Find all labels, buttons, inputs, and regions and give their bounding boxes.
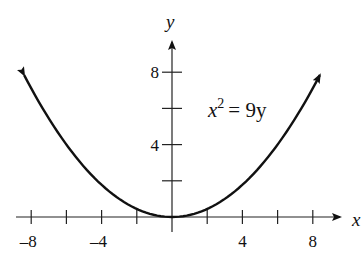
x-tick-label: 4 [238,232,247,251]
x-tick-labels: –8–448 [19,232,317,251]
x-tick-label: –8 [19,232,37,251]
y-tick-label: 8 [151,63,160,82]
x-tick-label: 8 [309,232,318,251]
equation-label: x2= 9y [207,96,267,122]
parabola-chart: x y x2= 9y –8–448 48 [0,0,362,265]
equation-rhs: = 9y [228,98,267,122]
y-tick-labels: 48 [151,63,160,154]
x-tick-label: –4 [89,232,108,251]
x-axis-label: x [351,209,361,230]
y-tick-label: 4 [151,136,160,155]
equation-exponent: 2 [217,96,224,111]
y-axis-label: y [164,11,175,32]
